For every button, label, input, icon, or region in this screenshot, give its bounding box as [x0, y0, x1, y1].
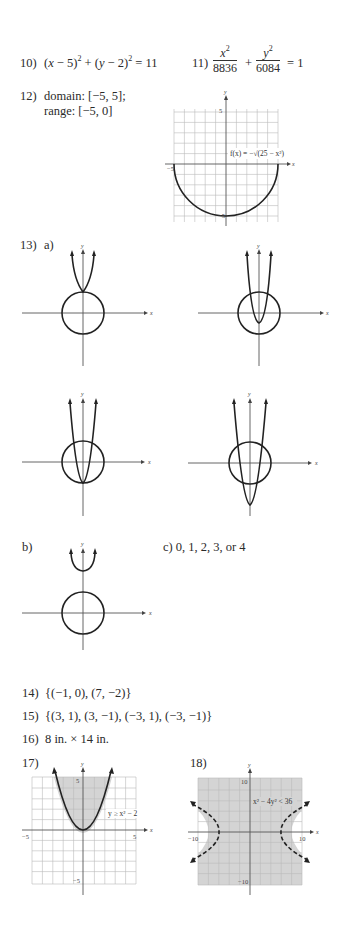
svg-text:x: x — [315, 829, 319, 835]
svg-text:10: 10 — [299, 835, 306, 842]
inequality-label: x² − 4y² < 36 — [253, 797, 292, 806]
svg-text:−10: −10 — [188, 835, 198, 842]
svg-text:y: y — [247, 762, 251, 768]
svg-text:10: 10 — [241, 778, 248, 785]
svg-text:−10: −10 — [238, 878, 248, 885]
problem-18-graph: yx 10−10 −1010 x² − 4y² < 36 — [0, 0, 340, 928]
